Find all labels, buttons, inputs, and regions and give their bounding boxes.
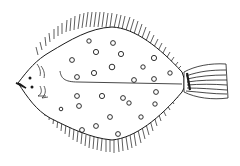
- tail-fin: [184, 64, 228, 99]
- flatfish-drawing: [0, 0, 240, 166]
- flatfish-illustration: [0, 0, 240, 166]
- eye-icon: [31, 86, 34, 89]
- eye-icon: [29, 77, 32, 80]
